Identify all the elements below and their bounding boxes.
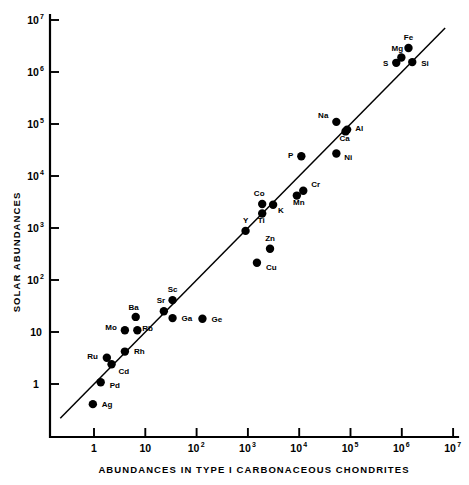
data-marker <box>121 347 129 355</box>
data-point-label: P <box>288 151 294 160</box>
data-marker <box>121 326 129 334</box>
data-point-label: Ge <box>211 315 222 324</box>
data-point-na: Na <box>318 111 340 126</box>
data-point-ti: Ti <box>258 209 267 224</box>
data-marker <box>269 201 277 209</box>
axes-group <box>50 15 458 437</box>
data-point-label: Pd <box>110 381 120 390</box>
data-point-p: P <box>288 151 306 160</box>
svg-text:4: 4 <box>303 441 307 448</box>
data-point-ru: Ru <box>87 352 111 362</box>
y-tick-label: 106 <box>27 65 44 78</box>
reference-line-group <box>60 28 445 418</box>
data-point-ga: Ga <box>168 314 192 323</box>
data-point-label: Mn <box>293 198 305 207</box>
svg-text:10: 10 <box>27 222 39 234</box>
data-marker <box>89 400 97 408</box>
x-tick-label: 10 <box>139 442 151 454</box>
svg-text:10: 10 <box>27 14 39 26</box>
data-point-label: Co <box>254 189 265 198</box>
data-point-ag: Ag <box>89 400 113 409</box>
data-point-ba: Ba <box>129 303 140 321</box>
data-marker <box>332 149 340 157</box>
svg-text:10: 10 <box>393 442 405 454</box>
svg-text:6: 6 <box>40 65 44 72</box>
data-point-label: Mo <box>105 323 117 332</box>
svg-text:10: 10 <box>27 170 39 182</box>
svg-text:10: 10 <box>342 442 354 454</box>
svg-text:10: 10 <box>239 442 251 454</box>
data-point-label: Sr <box>157 296 165 305</box>
data-point-label: Cu <box>266 263 277 272</box>
data-point-label: Rh <box>134 347 145 356</box>
data-point-mo: Mo <box>105 323 129 334</box>
y-axis-title: SOLAR ABUNDANCES <box>11 192 22 313</box>
data-point-label: Cr <box>311 180 320 189</box>
data-point-ca: Ca <box>339 127 350 143</box>
svg-text:5: 5 <box>355 441 359 448</box>
scatter-plot: 110102103104105106107 110102103104105106… <box>0 0 469 485</box>
data-marker <box>168 314 176 322</box>
data-point-mg: Mg <box>392 44 406 62</box>
data-point-label: Ru <box>87 352 98 361</box>
x-tick-label: 104 <box>290 441 307 454</box>
data-marker <box>253 259 261 267</box>
data-point-label: Mg <box>392 44 404 53</box>
data-point-s: S <box>383 59 401 68</box>
svg-text:4: 4 <box>40 169 44 176</box>
data-point-cu: Cu <box>253 259 277 272</box>
data-point-k: K <box>269 201 284 215</box>
svg-text:3: 3 <box>252 441 256 448</box>
data-point-y: Y <box>241 216 249 235</box>
data-marker <box>297 152 305 160</box>
data-point-label: Na <box>318 111 329 120</box>
data-point-label: Ga <box>182 314 193 323</box>
svg-text:1: 1 <box>91 442 97 454</box>
data-point-label: Zn <box>265 234 275 243</box>
data-point-label: Rb <box>142 324 153 333</box>
data-marker <box>404 44 412 52</box>
axis-frame <box>50 15 458 437</box>
data-marker <box>160 307 168 315</box>
data-point-fe: Fe <box>404 33 414 52</box>
data-point-label: K <box>278 206 284 215</box>
data-marker <box>408 58 416 66</box>
y-tick-label: 1 <box>33 378 39 390</box>
data-points-group: AgPdRuCdRhMoRbBaSrScGaGeYCuZnTiCoKMnCrPN… <box>87 33 429 409</box>
svg-text:10: 10 <box>27 66 39 78</box>
svg-text:5: 5 <box>40 117 44 124</box>
y-tick-label: 10 <box>30 326 42 338</box>
svg-text:10: 10 <box>30 326 42 338</box>
data-point-si: Si <box>408 58 429 68</box>
x-axis-title: ABUNDANCES IN TYPE I CARBONACEOUS CHONDR… <box>98 464 409 475</box>
data-point-cd: Cd <box>107 360 129 376</box>
data-marker <box>168 296 176 304</box>
y-tick-label: 104 <box>27 169 44 182</box>
data-point-label: Al <box>355 124 363 133</box>
data-point-label: Si <box>421 59 429 68</box>
data-marker <box>266 244 274 252</box>
data-point-label: Ni <box>344 153 352 162</box>
data-marker <box>332 118 340 126</box>
data-point-label: Ti <box>258 216 265 225</box>
x-tick-label: 1 <box>91 442 97 454</box>
data-marker <box>133 326 141 334</box>
y-tick-label: 103 <box>27 221 44 234</box>
x-tick-label: 105 <box>342 441 359 454</box>
data-point-label: Cd <box>119 367 130 376</box>
data-marker <box>132 313 140 321</box>
data-point-label: Ba <box>129 303 140 312</box>
svg-text:10: 10 <box>139 442 151 454</box>
svg-text:7: 7 <box>457 441 461 448</box>
data-point-zn: Zn <box>265 234 275 253</box>
svg-text:2: 2 <box>40 273 44 280</box>
data-point-pd: Pd <box>96 378 120 390</box>
data-point-label: Y <box>243 216 249 225</box>
svg-text:10: 10 <box>27 118 39 130</box>
y-tick-label: 107 <box>27 13 44 26</box>
y-tick-label: 102 <box>27 273 44 286</box>
svg-text:2: 2 <box>201 441 205 448</box>
svg-text:3: 3 <box>40 221 44 228</box>
svg-text:10: 10 <box>444 442 456 454</box>
svg-text:1: 1 <box>33 378 39 390</box>
